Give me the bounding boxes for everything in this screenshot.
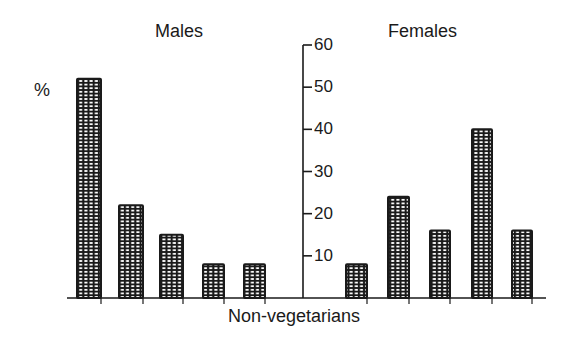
bar-chart <box>0 0 578 345</box>
y-tick-label: 50 <box>314 78 333 95</box>
y-tick-label: 60 <box>314 36 333 53</box>
y-tick-label: 40 <box>314 120 333 137</box>
males-panel-title: Males <box>155 22 203 40</box>
bar-males-4 <box>203 264 224 298</box>
females-panel-title: Females <box>388 22 457 40</box>
bar-males-3 <box>160 235 183 298</box>
y-tick-label: 30 <box>314 163 333 180</box>
y-axis-unit-label: % <box>34 81 50 99</box>
y-axis-ticks <box>303 45 312 256</box>
bar-males-2 <box>119 205 143 298</box>
bars <box>77 79 532 298</box>
y-tick-label: 20 <box>314 205 333 222</box>
bar-females-3 <box>430 231 450 298</box>
bar-females-2 <box>388 197 409 298</box>
bar-females-1 <box>346 264 367 298</box>
bar-females-5 <box>512 231 532 298</box>
bar-males-1 <box>77 79 101 298</box>
bar-females-4 <box>472 129 492 298</box>
x-axis-label: Non-vegetarians <box>228 307 360 325</box>
y-tick-label: 10 <box>314 247 333 264</box>
bar-males-5 <box>244 264 265 298</box>
